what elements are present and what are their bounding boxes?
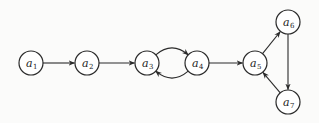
node-subscript: 4	[199, 63, 204, 71]
node-a6: a6	[276, 10, 300, 34]
node-a1: a1	[19, 51, 43, 75]
directed-graph-diagram: a1a2a3a4a5a6a7	[0, 0, 319, 123]
node-subscript: 3	[149, 63, 153, 71]
node-a7: a7	[276, 90, 300, 114]
edge-a7-to-a5	[263, 73, 280, 93]
edge-a3-to-a4	[156, 48, 188, 55]
node-label: a	[283, 16, 290, 29]
node-label: a	[192, 57, 199, 70]
node-label: a	[142, 57, 149, 70]
node-subscript: 6	[290, 22, 295, 30]
node-a2: a2	[75, 51, 99, 75]
node-a3: a3	[135, 51, 159, 75]
node-subscript: 1	[33, 63, 37, 71]
node-label: a	[26, 57, 33, 70]
node-a4: a4	[185, 51, 209, 75]
node-subscript: 5	[257, 63, 261, 71]
node-label: a	[82, 57, 89, 70]
node-label: a	[283, 96, 290, 109]
node-a5: a5	[243, 51, 267, 75]
node-subscript: 2	[89, 63, 93, 71]
edge-a4-to-a3	[156, 71, 188, 78]
nodes-layer: a1a2a3a4a5a6a7	[19, 10, 300, 114]
node-subscript: 7	[290, 102, 294, 110]
node-label: a	[250, 57, 257, 70]
edge-a5-to-a6	[263, 32, 281, 54]
